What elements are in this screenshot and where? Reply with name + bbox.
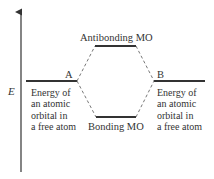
bonding-label: Bonding MO [88,121,144,133]
antibonding-label: Antibonding MO [80,32,153,44]
atom-a-label: A [65,69,73,81]
atom-a-description: Energy of an atomic orbital in a free at… [31,87,76,132]
atom-b-label: B [157,69,164,81]
correlation-lines [77,46,154,117]
energy-axis-label: E [8,85,15,97]
atom-b-description: Energy of an atomic orbital in a free at… [157,87,202,132]
